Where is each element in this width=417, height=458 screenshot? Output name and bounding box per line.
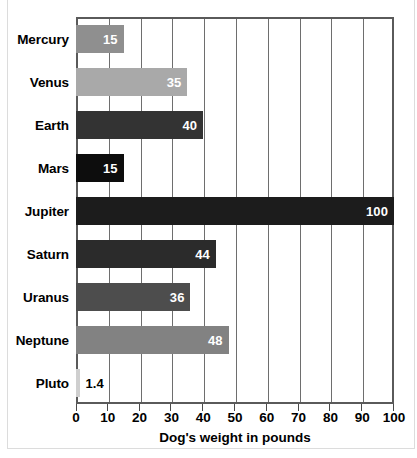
bar-row: 1.4 [76,369,394,397]
bar-row: 15 [76,154,394,182]
bar-row: 48 [76,326,394,354]
category-label-pluto: Pluto [36,375,69,390]
bar-value-label-earth: 40 [183,117,198,132]
category-axis-labels: MercuryVenusEarthMarsJupiterSaturnUranus… [0,17,73,404]
bar-row: 40 [76,111,394,139]
category-label-mercury: Mercury [17,31,69,46]
bar-value-label-venus: 35 [167,74,182,89]
tick-label-40: 40 [196,410,211,425]
bar-row: 15 [76,25,394,53]
bar-earth[interactable]: 40 [76,111,203,139]
bar-row: 36 [76,283,394,311]
bar-value-label-mars: 15 [103,160,118,175]
bar-value-label-uranus: 36 [170,289,185,304]
bar-row: 35 [76,68,394,96]
category-label-uranus: Uranus [23,289,69,304]
tick-label-50: 50 [227,410,242,425]
bar-jupiter[interactable]: 100 [76,197,394,225]
bar-value-label-pluto: 1.4 [85,375,103,390]
bar-value-label-saturn: 44 [195,246,210,261]
category-label-neptune: Neptune [16,332,69,347]
tick-label-80: 80 [323,410,338,425]
category-label-jupiter: Jupiter [25,203,69,218]
x-axis-tick-labels: 0102030405060708090100 [76,410,394,428]
tick-label-20: 20 [132,410,147,425]
bar-value-label-neptune: 48 [208,332,223,347]
category-label-mars: Mars [38,160,69,175]
bar-chart: MercuryVenusEarthMarsJupiterSaturnUranus… [0,0,417,458]
bar-value-label-jupiter: 100 [366,203,388,218]
bar-venus[interactable]: 35 [76,68,187,96]
category-label-earth: Earth [35,117,69,132]
tick-label-10: 10 [100,410,115,425]
x-axis-title: Dog's weight in pounds [76,430,394,445]
category-label-saturn: Saturn [27,246,69,261]
bar-saturn[interactable]: 44 [76,240,216,268]
tick-label-60: 60 [259,410,274,425]
tick-label-90: 90 [355,410,370,425]
tick-label-0: 0 [72,410,80,425]
bar-row: 44 [76,240,394,268]
bar-value-label-mercury: 15 [103,31,118,46]
bar-neptune[interactable]: 48 [76,326,229,354]
tick-label-30: 30 [164,410,179,425]
bar-row: 100 [76,197,394,225]
bar-pluto[interactable]: 1.4 [76,369,80,397]
bars-layer: 153540151004436481.4 [76,17,394,404]
bar-mars[interactable]: 15 [76,154,124,182]
tick-label-100: 100 [383,410,406,425]
category-label-venus: Venus [30,74,69,89]
tick-label-70: 70 [291,410,306,425]
bar-uranus[interactable]: 36 [76,283,190,311]
bar-mercury[interactable]: 15 [76,25,124,53]
